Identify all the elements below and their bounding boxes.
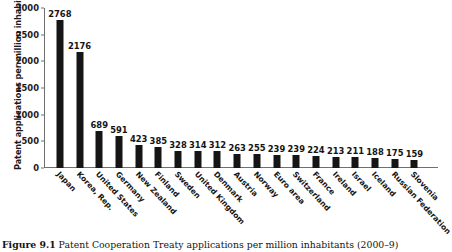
bar-slot: 224: [306, 8, 326, 168]
caption-text: Patent Cooperation Treaty applications p…: [59, 239, 399, 250]
bar-slot: 385: [149, 8, 169, 168]
x-tick-slot: Sweden: [168, 170, 188, 232]
bar[interactable]: [214, 151, 221, 168]
y-tick-mark: [41, 34, 44, 35]
bar[interactable]: [194, 151, 201, 168]
x-tick-slot: Israel: [346, 170, 366, 232]
bar-slot: 689: [89, 8, 109, 168]
bar-value-label: 328: [169, 140, 186, 150]
bar[interactable]: [175, 151, 182, 168]
bar-value-label: 239: [268, 144, 285, 154]
bar-value-label: 188: [366, 147, 383, 157]
y-tick-mark: [41, 141, 44, 142]
x-tick-slot: Germany: [109, 170, 129, 232]
y-tick-label: 1000: [16, 110, 44, 120]
bar[interactable]: [332, 157, 339, 168]
figure-caption: Figure 9.1 Patent Cooperation Treaty app…: [2, 239, 442, 250]
y-tick-label: 2000: [16, 56, 44, 66]
caption-label: Figure 9.1: [2, 239, 56, 250]
bar[interactable]: [234, 154, 241, 168]
bar-slot: 188: [365, 8, 385, 168]
bar-value-label: 312: [209, 140, 226, 150]
y-tick-label: 1500: [16, 83, 44, 93]
bar[interactable]: [76, 52, 83, 168]
bar-slot: 213: [326, 8, 346, 168]
x-tick-slot: United Kingdom: [188, 170, 208, 232]
bar-value-label: 385: [150, 136, 167, 146]
bar-slot: 263: [227, 8, 247, 168]
plot-area: 050010001500200025003000 276821766895914…: [44, 8, 438, 168]
bar-value-label: 224: [307, 145, 324, 155]
x-tick-slot: Euro area: [267, 170, 287, 232]
x-tick-slot: Iceland: [365, 170, 385, 232]
bar[interactable]: [155, 147, 162, 168]
x-tick-slot: Russian Federation: [385, 170, 405, 232]
bar[interactable]: [253, 154, 260, 168]
x-tick-label-group: JapanKorea, Rep.United StatesGermanyNew …: [44, 170, 438, 232]
bar[interactable]: [115, 136, 122, 168]
bar[interactable]: [96, 131, 103, 168]
bar-slot: 239: [267, 8, 287, 168]
bar[interactable]: [312, 156, 319, 168]
bar-value-label: 689: [90, 120, 107, 130]
bar[interactable]: [372, 158, 379, 168]
bar-value-label: 591: [110, 125, 127, 135]
y-axis-line: [44, 8, 45, 168]
y-tick-mark: [41, 168, 44, 169]
bar-value-label: 263: [228, 143, 245, 153]
x-tick-slot: Korea, Rep.: [70, 170, 90, 232]
x-tick-slot: Switzerland: [286, 170, 306, 232]
bar-value-label: 213: [327, 146, 344, 156]
bar[interactable]: [352, 157, 359, 168]
bar-slot: 314: [188, 8, 208, 168]
y-tick-label: 2500: [16, 30, 44, 40]
bar-value-label: 423: [130, 134, 147, 144]
bar[interactable]: [411, 160, 418, 168]
x-tick-slot: Denmark: [208, 170, 228, 232]
bar-slot: 312: [208, 8, 228, 168]
bar-value-label: 175: [386, 148, 403, 158]
bar-slot: 2176: [70, 8, 90, 168]
bar-value-label: 239: [287, 144, 304, 154]
x-tick-slot: Norway: [247, 170, 267, 232]
bar-slot: 328: [168, 8, 188, 168]
x-tick-slot: Japan: [50, 170, 70, 232]
bar-slot: 423: [129, 8, 149, 168]
x-tick-slot: France: [306, 170, 326, 232]
x-tick-slot: United States: [89, 170, 109, 232]
bar-slot: 255: [247, 8, 267, 168]
bar-value-label: 314: [189, 140, 206, 150]
bar[interactable]: [135, 145, 142, 168]
y-tick-mark: [41, 8, 44, 9]
bar-slot: 211: [346, 8, 366, 168]
bar[interactable]: [56, 20, 63, 168]
bar[interactable]: [273, 155, 280, 168]
bar-slot: 239: [286, 8, 306, 168]
bar[interactable]: [391, 159, 398, 168]
y-tick-mark: [41, 88, 44, 89]
bar-slot: 591: [109, 8, 129, 168]
bar[interactable]: [293, 155, 300, 168]
y-tick-mark: [41, 61, 44, 62]
y-tick-mark: [41, 114, 44, 115]
bar-slot: 175: [385, 8, 405, 168]
bar-value-label: 159: [406, 149, 423, 159]
x-tick-slot: New Zealand: [129, 170, 149, 232]
x-tick-slot: Slovenia: [405, 170, 425, 232]
x-tick-slot: Austria: [227, 170, 247, 232]
bar-slot: 159: [405, 8, 425, 168]
bar-value-label: 2176: [68, 41, 91, 51]
y-tick-label: 3000: [16, 3, 44, 13]
bar-value-label: 255: [248, 143, 265, 153]
bar-slot: 2768: [50, 8, 70, 168]
x-tick-slot: Ireland: [326, 170, 346, 232]
x-tick-slot: Finland: [149, 170, 169, 232]
x-tick-label: Slovenia: [409, 170, 440, 203]
bar-value-label: 2768: [48, 9, 71, 19]
bar-value-label: 211: [347, 146, 364, 156]
